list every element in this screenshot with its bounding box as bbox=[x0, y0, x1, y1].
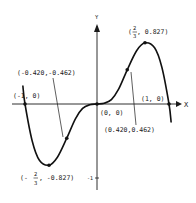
y-axis-arrow bbox=[94, 24, 100, 32]
label-max-suffix: , 0.827) bbox=[137, 28, 168, 36]
label-pos-0420: (0.420,0.462) bbox=[104, 126, 155, 134]
label-max-prefix: ( bbox=[128, 28, 132, 36]
x-axis-label: X bbox=[184, 101, 189, 109]
label-min-suffix: , -0.827) bbox=[39, 174, 74, 182]
label-minus-one-zero: (-1, 0) bbox=[13, 92, 40, 100]
label-min-prefix: (- bbox=[20, 174, 28, 182]
label-min-den: 3 bbox=[34, 180, 37, 186]
label-max-den: 3 bbox=[133, 33, 136, 39]
chart: X Y -1 (-1, 0) (-0.420,-0.462) (0, 0) (0… bbox=[0, 0, 196, 203]
data-point-4 bbox=[125, 68, 129, 72]
y-axis-label: Y bbox=[95, 14, 99, 20]
label-min-num: 2 bbox=[34, 171, 37, 177]
y-tick-label-minus-1: -1 bbox=[87, 175, 93, 181]
data-point-5 bbox=[143, 41, 147, 45]
label-neg-0420: (-0.420,-0.462) bbox=[17, 69, 76, 77]
data-point-2 bbox=[65, 136, 69, 140]
data-point-1 bbox=[47, 163, 51, 167]
label-min: (- 2 3 , -0.827) bbox=[20, 171, 74, 186]
data-point-3 bbox=[95, 102, 99, 106]
point-labels: (-1, 0) (-0.420,-0.462) (0, 0) (0.420,0.… bbox=[13, 25, 168, 186]
leader-line-pos bbox=[131, 72, 136, 125]
label-one-zero: (1, 0) bbox=[141, 95, 164, 103]
label-origin: (0, 0) bbox=[100, 109, 123, 117]
label-max: ( 2 3 , 0.827) bbox=[128, 25, 168, 39]
leader-line-neg bbox=[53, 78, 63, 137]
data-point-6 bbox=[167, 102, 171, 106]
data-point-0 bbox=[23, 102, 27, 106]
x-axis-arrow bbox=[176, 101, 182, 107]
label-max-num: 2 bbox=[133, 25, 136, 31]
